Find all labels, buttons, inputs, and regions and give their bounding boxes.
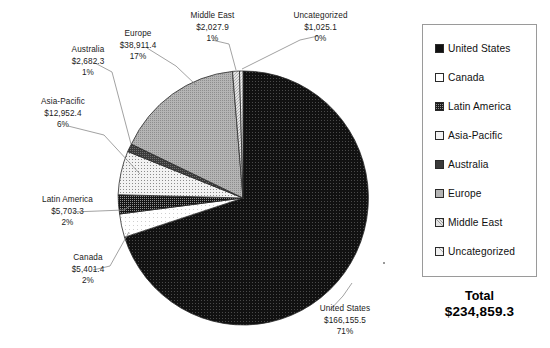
legend-item-middle-east[interactable]: Middle East: [423, 208, 536, 237]
legend-label-uncategorized: Uncategorized: [448, 246, 515, 257]
callout-canada-percent: 2%: [38, 275, 138, 287]
pie-chart-figure: Middle East $2,027.9 1% Uncategorized $1…: [0, 0, 550, 348]
legend-label-europe: Europe: [448, 188, 481, 199]
callout-australia-value: $2,682.3: [38, 56, 138, 68]
pie-slices: [118, 71, 368, 325]
legend-label-asia-pacific: Asia-Pacific: [448, 130, 502, 141]
legend-item-uncategorized[interactable]: Uncategorized: [423, 237, 536, 266]
callout-latin-america-percent: 2%: [10, 217, 125, 229]
legend-label-middle-east: Middle East: [448, 217, 502, 228]
callout-canada: Canada $5,401.4 2%: [38, 252, 138, 287]
callout-uncategorized: Uncategorized $1,025.1 0%: [268, 10, 373, 45]
legend-item-latin-america[interactable]: Latin America: [423, 92, 536, 121]
legend-swatch-europe-icon: [435, 189, 444, 198]
legend-label-united-states: United States: [448, 43, 510, 54]
legend-swatch-asia-pacific-icon: [435, 131, 444, 140]
total-block: Total $234,859.3: [422, 288, 537, 320]
callout-latin-america-value: $5,703.3: [10, 206, 125, 218]
legend-item-australia[interactable]: Australia: [423, 150, 536, 179]
callout-uncategorized-name: Uncategorized: [268, 10, 373, 22]
legend-label-canada: Canada: [448, 72, 484, 83]
legend-swatch-canada-icon: [435, 73, 444, 82]
callout-asia-pacific-value: $12,952.4: [8, 108, 118, 120]
legend-item-canada[interactable]: Canada: [423, 63, 536, 92]
leader-line-middle-east: [212, 40, 236, 70]
callout-canada-value: $5,401.4: [38, 264, 138, 276]
callout-middle-east-name: Middle East: [160, 10, 265, 22]
legend-swatch-uncategorized-icon: [435, 247, 444, 256]
callout-uncategorized-value: $1,025.1: [268, 22, 373, 34]
legend-swatch-united-states-icon: [435, 44, 444, 53]
callout-australia-name: Australia: [38, 44, 138, 56]
chart-legend: United States Canada Latin America Asia-…: [422, 24, 537, 277]
callout-australia: Australia $2,682.3 1%: [38, 44, 138, 79]
callout-asia-pacific-percent: 6%: [8, 119, 118, 131]
legend-label-latin-america: Latin America: [448, 101, 511, 112]
callout-asia-pacific-name: Asia-Pacific: [8, 96, 118, 108]
callout-united-states-percent: 71%: [290, 326, 400, 338]
total-caption: Total: [422, 288, 537, 304]
callout-united-states-name: United States: [290, 303, 400, 315]
legend-item-asia-pacific[interactable]: Asia-Pacific: [423, 121, 536, 150]
legend-item-united-states[interactable]: United States: [423, 34, 536, 63]
callout-europe-name: Europe: [88, 28, 188, 40]
legend-swatch-middle-east-icon: [435, 218, 444, 227]
callout-latin-america-name: Latin America: [10, 194, 125, 206]
legend-swatch-latin-america-icon: [435, 102, 444, 111]
callout-latin-america: Latin America $5,703.3 2%: [10, 194, 125, 229]
callout-united-states-value: $166,155.5: [290, 315, 400, 327]
legend-item-europe[interactable]: Europe: [423, 179, 536, 208]
callout-canada-name: Canada: [38, 252, 138, 264]
legend-label-australia: Australia: [448, 159, 489, 170]
callout-asia-pacific: Asia-Pacific $12,952.4 6%: [8, 96, 118, 131]
callout-uncategorized-percent: 0%: [268, 33, 373, 45]
callout-united-states: United States $166,155.5 71%: [290, 303, 400, 338]
scan-artifact-dot: [383, 262, 385, 264]
total-amount: $234,859.3: [422, 304, 537, 320]
callout-australia-percent: 1%: [38, 67, 138, 79]
legend-swatch-australia-icon: [435, 160, 444, 169]
